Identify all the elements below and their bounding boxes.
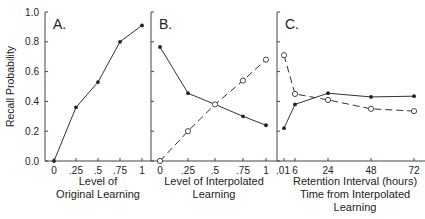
y-tick-label: 0.8 [25,36,39,47]
x-tick-label: 1 [263,165,269,176]
y-tick-label: 1.0 [25,7,39,18]
open-circle-marker [411,108,416,113]
open-circle-marker [157,158,162,163]
filled-circle-marker [52,159,56,163]
filled-circle-marker [140,24,144,28]
filled-circle-marker [118,40,122,44]
filled-circle-marker [186,91,190,95]
filled-circle-marker [264,123,268,127]
open-series-line [160,60,266,161]
filled-circle-marker [74,105,78,109]
filled-circle-marker [293,102,297,106]
filled-circle-marker [326,91,330,95]
filled-series-line [284,93,414,128]
panel-label: A. [53,16,66,32]
open-circle-marker [281,53,286,58]
x-tick-label: 1 [139,165,145,176]
x-axis-title: Level of Interpolated [164,175,264,187]
y-axis-label: Recall Probability [4,45,16,127]
panel-b-interpolated-learning: 0.25.5.751Level of InterpolatedLearningB… [151,12,277,200]
y-axis-title: Recall Probability [4,45,16,127]
filled-circle-marker [412,94,416,98]
panel-label: B. [159,16,172,32]
panel-label: C. [285,16,299,32]
filled-circle-marker [96,80,100,84]
y-tick-label: 0.2 [25,126,39,137]
recall-probability-figure: Recall Probability 0.00.20.40.60.81.00.2… [0,0,425,219]
x-tick-label: 0 [51,165,57,176]
open-circle-marker [212,102,217,107]
x-tick-label: .01 [276,165,290,176]
y-tick-label: 0.4 [25,96,39,107]
y-tick-label: 0.0 [25,156,39,167]
open-circle-marker [292,91,297,96]
open-circle-marker [263,57,268,62]
open-series-line [284,55,414,111]
x-axis-title: Original Learning [56,188,140,200]
filled-circle-marker [241,114,245,118]
y-tick-label: 0.6 [25,66,39,77]
open-circle-marker [240,78,245,83]
x-axis-title: Learning [334,201,377,213]
open-circle-marker [325,97,330,102]
x-axis-title: Level of [79,175,118,187]
filled-series-line [54,25,142,161]
filled-circle-marker [282,126,286,130]
filled-series-line [160,47,266,125]
x-axis-title: Retention Interval (hours) [293,175,417,187]
panel-a-original-learning: 0.00.20.40.60.81.00.25.5.751Level ofOrig… [25,7,151,201]
open-circle-marker [368,106,373,111]
x-axis-title: Learning [193,188,236,200]
panel-c-retention-interval: .016244872Retention Interval (hours)Time… [276,12,425,213]
filled-circle-marker [158,45,162,49]
open-circle-marker [185,129,190,134]
x-tick-label: 0 [157,165,163,176]
x-axis-title: Time from Interpolated [300,188,410,200]
filled-circle-marker [369,95,373,99]
